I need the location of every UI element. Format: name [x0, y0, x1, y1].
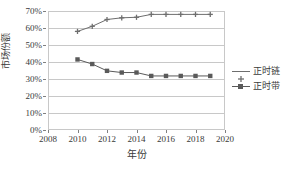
x-axis: 2008201020122014201620182020	[48, 130, 225, 150]
square-marker	[120, 70, 124, 74]
chart-legend: 正时链正时带	[232, 64, 296, 94]
cross-marker	[119, 15, 124, 20]
legend-label: 正时带	[250, 81, 280, 92]
square-marker	[208, 74, 212, 78]
x-tick-label: 2020	[216, 134, 234, 144]
cross-marker	[149, 12, 154, 17]
x-tick-mark	[196, 130, 197, 133]
y-tick-label: 30%	[26, 75, 43, 84]
y-tick-mark	[43, 113, 46, 114]
x-tick-mark	[137, 130, 138, 133]
legend-cross-icon	[232, 66, 250, 77]
cross-marker	[193, 12, 198, 17]
x-tick-mark	[107, 130, 108, 133]
legend-label: 正时链	[250, 66, 280, 77]
series-line-2	[78, 59, 211, 75]
square-marker	[75, 57, 79, 61]
cross-marker	[104, 17, 109, 22]
x-tick-label: 2008	[39, 134, 57, 144]
y-tick-mark	[43, 28, 46, 29]
x-axis-title: 年份	[48, 149, 225, 161]
square-marker	[90, 62, 94, 66]
x-tick-label: 2012	[98, 134, 116, 144]
y-tick-label: 70%	[26, 7, 43, 16]
square-marker	[149, 74, 153, 78]
legend-square-icon	[232, 81, 250, 92]
x-tick-label: 2014	[128, 134, 146, 144]
cross-marker	[75, 29, 80, 34]
x-tick-mark	[78, 130, 79, 133]
y-tick-label: 20%	[26, 92, 43, 101]
y-tick-mark	[43, 45, 46, 46]
series-line-1	[78, 14, 211, 31]
legend-item[interactable]: 正时链	[232, 64, 296, 79]
y-tick-label: 10%	[26, 109, 43, 118]
x-tick-label: 2010	[69, 134, 87, 144]
cross-marker	[134, 15, 139, 20]
series-layer	[48, 11, 225, 130]
y-tick-label: 40%	[26, 58, 43, 67]
cross-marker	[208, 12, 213, 17]
y-axis: 0%10%20%30%40%50%60%70%	[0, 11, 46, 130]
legend-item[interactable]: 正时带	[232, 79, 296, 94]
square-marker	[193, 74, 197, 78]
x-tick-mark	[166, 130, 167, 133]
y-tick-mark	[43, 11, 46, 12]
square-marker	[134, 70, 138, 74]
y-tick-mark	[43, 79, 46, 80]
x-tick-label: 2018	[187, 134, 205, 144]
cross-marker	[163, 12, 168, 17]
y-tick-mark	[43, 130, 46, 131]
y-tick-label: 50%	[26, 41, 43, 50]
cross-marker	[90, 24, 95, 29]
y-tick-mark	[43, 62, 46, 63]
y-tick-mark	[43, 96, 46, 97]
line-chart: 市场份额 0%10%20%30%40%50%60%70% 20082010201…	[0, 0, 297, 172]
x-tick-label: 2016	[157, 134, 175, 144]
square-marker	[105, 69, 109, 73]
y-tick-label: 60%	[26, 24, 43, 33]
square-marker	[179, 74, 183, 78]
square-marker	[164, 74, 168, 78]
x-tick-mark	[48, 130, 49, 133]
x-tick-mark	[225, 130, 226, 133]
cross-marker	[178, 12, 183, 17]
